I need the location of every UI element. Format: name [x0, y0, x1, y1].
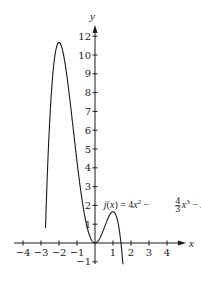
x-tick-label: −4: [16, 247, 31, 258]
y-tick-label: 7: [85, 106, 91, 117]
y-tick-label: −1: [76, 256, 91, 267]
y-tick-label: 6: [85, 125, 91, 136]
y-tick-label: 8: [85, 87, 91, 98]
y-axis-title: y: [89, 10, 95, 22]
function-label: j(x) = 4x2 − 43x3 − x4: [102, 195, 201, 214]
axes: [14, 25, 186, 264]
y-axis-arrow-icon: [93, 25, 98, 33]
svg-text:x3 − x4: x3 − x4: [181, 198, 201, 210]
y-tick-label: 3: [85, 181, 91, 192]
y-tick-label: 9: [85, 68, 91, 79]
x-tick-label: 4: [164, 247, 170, 258]
y-tick-label: 5: [85, 144, 91, 155]
function-plot: −4−3−2−11234−11234567891012xy j(x) = 4x2…: [0, 0, 201, 282]
axis-labels: −4−3−2−11234−11234567891012xy: [16, 10, 194, 267]
x-tick-label: 1: [110, 247, 116, 258]
svg-text:3: 3: [175, 203, 180, 214]
y-tick-label: 2: [85, 200, 91, 211]
y-tick-label: 4: [85, 162, 91, 173]
y-tick-label: 12: [78, 31, 91, 42]
x-tick-label: 3: [146, 247, 152, 258]
x-tick-label: 2: [128, 247, 134, 258]
y-tick-label: 1: [85, 219, 91, 230]
x-tick-label: −2: [52, 247, 67, 258]
function-formula: j(x) = 4x2 −: [102, 198, 150, 211]
x-tick-label: −3: [34, 247, 49, 258]
x-axis-arrow-icon: [178, 241, 186, 246]
x-axis-title: x: [188, 237, 194, 249]
y-tick-label: 10: [78, 50, 91, 61]
